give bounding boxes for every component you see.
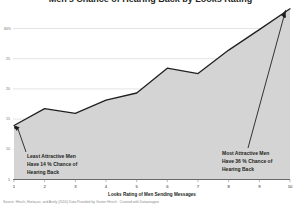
x-tick-label: 8 (228, 184, 231, 189)
annotation-line-3: Hearing Back (222, 166, 254, 172)
y-tick-label: 30% (4, 27, 12, 31)
y-tick-label: 5 (8, 178, 10, 182)
annotation-line-1: Most Attractive Men (222, 150, 269, 156)
x-tick-label: 9 (258, 184, 261, 189)
annotation-line-2: Have 36 % Chance of (222, 158, 273, 164)
x-tick-label: 1 (13, 184, 16, 189)
annotation-line-1: Least Attractive Men (27, 153, 76, 159)
chart-container: Men's Chance of Hearing Back by Looks Ra… (0, 0, 301, 211)
x-tick-label: 10 (288, 184, 293, 189)
x-tick-label: 2 (43, 184, 46, 189)
y-axis-ticks: 5 10 15 20 25 30% (4, 27, 12, 182)
annotation-line-2: Have 14 % Chance of (27, 161, 78, 167)
annotation-line-3: Hearing Back (27, 169, 59, 175)
y-tick-label: 20 (6, 87, 10, 91)
y-tick-label: 25 (6, 57, 10, 61)
x-tick-label: 4 (105, 184, 108, 189)
x-tick-label: 7 (197, 184, 200, 189)
x-tick-label: 5 (136, 184, 139, 189)
x-axis-ticks: 1 2 3 4 5 6 7 8 9 10 (13, 184, 293, 189)
y-tick-label: 15 (6, 117, 10, 121)
x-tick-label: 3 (74, 184, 77, 189)
y-tick-label: 10 (6, 147, 10, 151)
source-credit: Source: Hitsch, Hortaçsu, and Ariely (20… (3, 200, 159, 204)
data-point-marker (283, 15, 286, 18)
area-chart-svg: 5 10 15 20 25 30% 1 2 (0, 0, 301, 211)
x-axis-title: Looks Rating of Men Sending Messages (108, 192, 196, 197)
data-point-marker (14, 126, 17, 129)
x-tick-label: 6 (166, 184, 169, 189)
